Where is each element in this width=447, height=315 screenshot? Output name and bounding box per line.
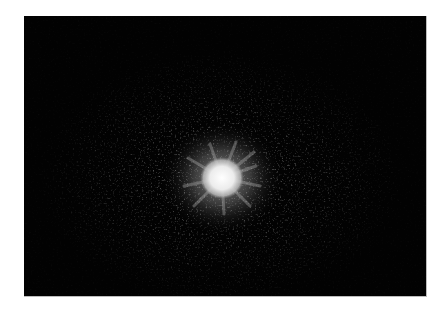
image-frame bbox=[24, 16, 427, 297]
diffraction-pattern bbox=[24, 16, 426, 296]
